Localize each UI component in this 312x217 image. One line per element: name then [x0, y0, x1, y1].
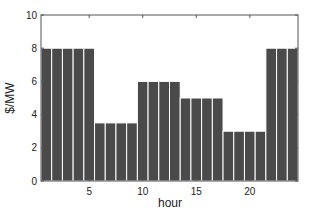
bar	[244, 131, 255, 181]
bar	[277, 48, 288, 181]
bar	[137, 81, 148, 181]
bar	[84, 48, 95, 181]
x-tick-label: 15	[191, 186, 203, 197]
y-tick-label: 8	[31, 43, 37, 54]
bar	[234, 131, 245, 181]
x-axis-label: hour	[158, 196, 182, 210]
bar	[148, 81, 159, 181]
y-tick-label: 6	[31, 76, 37, 87]
bar	[223, 131, 234, 181]
x-tick-label: 5	[86, 186, 92, 197]
bar	[212, 98, 223, 181]
bar-chart: 0246810 5101520 hour $/MW	[0, 0, 312, 217]
bar	[52, 48, 63, 181]
bar	[73, 48, 84, 181]
bar	[180, 98, 191, 181]
bar	[159, 81, 170, 181]
y-tick-label: 10	[26, 10, 38, 21]
x-tick-label: 10	[137, 186, 149, 197]
bar	[116, 123, 127, 181]
y-axis-label: $/MW	[3, 82, 17, 114]
bar	[202, 98, 213, 181]
bar	[170, 81, 181, 181]
bar	[266, 48, 277, 181]
y-tick-label: 2	[31, 142, 37, 153]
bar	[95, 123, 106, 181]
bars	[41, 48, 298, 181]
y-tick-label: 0	[31, 176, 37, 187]
bar	[105, 123, 116, 181]
bar	[191, 98, 202, 181]
x-tick-label: 20	[244, 186, 256, 197]
bar	[127, 123, 138, 181]
bar	[62, 48, 73, 181]
y-tick-label: 4	[31, 109, 37, 120]
bar	[255, 131, 266, 181]
